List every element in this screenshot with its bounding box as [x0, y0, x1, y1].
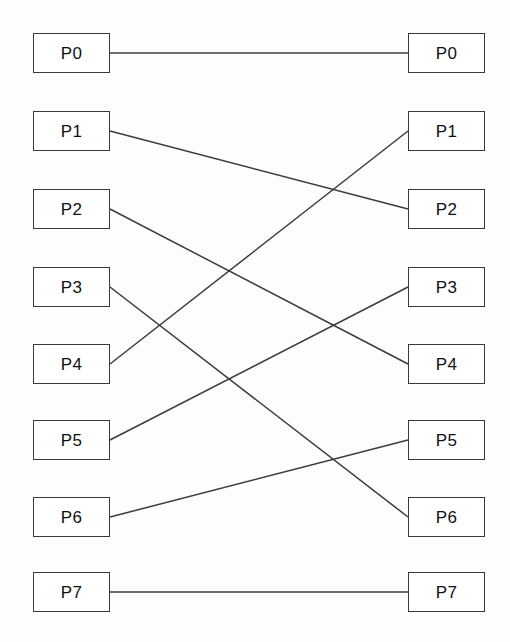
right-node-p3[interactable]: P3 — [408, 267, 485, 307]
node-label: P3 — [61, 279, 82, 296]
node-label: P0 — [436, 45, 457, 62]
edge-p3-to-p6 — [110, 287, 408, 517]
right-node-p4[interactable]: P4 — [408, 344, 485, 384]
node-label: P3 — [436, 279, 457, 296]
edge-p5-to-p3 — [110, 287, 408, 440]
right-node-p1[interactable]: P1 — [408, 111, 485, 151]
edge-p1-to-p2 — [110, 131, 408, 209]
left-node-p3[interactable]: P3 — [33, 267, 110, 307]
node-label: P2 — [61, 201, 82, 218]
node-label: P6 — [436, 509, 457, 526]
node-label: P4 — [61, 356, 82, 373]
node-label: P4 — [436, 356, 457, 373]
node-label: P5 — [61, 432, 82, 449]
edge-p4-to-p1 — [110, 131, 408, 364]
node-label: P1 — [436, 123, 457, 140]
right-node-p7[interactable]: P7 — [408, 572, 485, 612]
left-node-p1[interactable]: P1 — [33, 111, 110, 151]
left-node-p4[interactable]: P4 — [33, 344, 110, 384]
node-label: P6 — [61, 509, 82, 526]
right-node-p2[interactable]: P2 — [408, 189, 485, 229]
diagram-canvas: P0P1P2P3P4P5P6P7 P0P1P2P3P4P5P6P7 — [0, 0, 510, 642]
left-node-p7[interactable]: P7 — [33, 572, 110, 612]
node-label: P7 — [61, 584, 82, 601]
node-label: P2 — [436, 201, 457, 218]
left-node-p2[interactable]: P2 — [33, 189, 110, 229]
node-label: P1 — [61, 123, 82, 140]
right-node-p5[interactable]: P5 — [408, 420, 485, 460]
node-label: P0 — [61, 45, 82, 62]
node-label: P5 — [436, 432, 457, 449]
right-node-p6[interactable]: P6 — [408, 497, 485, 537]
right-node-p0[interactable]: P0 — [408, 33, 485, 73]
edge-p2-to-p4 — [110, 209, 408, 364]
connection-lines-layer — [0, 0, 510, 642]
left-node-p5[interactable]: P5 — [33, 420, 110, 460]
edge-p6-to-p5 — [110, 440, 408, 517]
left-node-p0[interactable]: P0 — [33, 33, 110, 73]
node-label: P7 — [436, 584, 457, 601]
left-node-p6[interactable]: P6 — [33, 497, 110, 537]
